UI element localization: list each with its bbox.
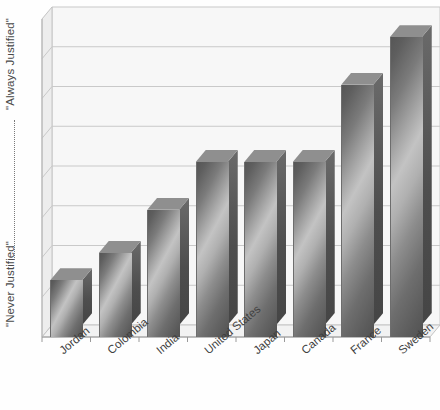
bar-front-face	[293, 162, 326, 337]
bar-side-face	[228, 150, 238, 325]
bar-front-face	[147, 210, 180, 337]
bar-side-face	[373, 73, 383, 325]
bar-side-face	[276, 150, 286, 325]
bar-side-face	[131, 241, 141, 325]
bar-side-face	[179, 198, 189, 325]
bar-united-states	[196, 150, 228, 337]
bar-side-face	[325, 150, 335, 325]
bar-canada	[293, 150, 325, 337]
bar-side-face	[422, 25, 432, 325]
bar-france	[341, 73, 373, 337]
bar-sweden	[390, 25, 422, 337]
bar-front-face	[196, 162, 229, 337]
bar-front-face	[341, 85, 374, 337]
bar-chart: "Always Justified" "Never Justified" Jor…	[0, 0, 440, 410]
bar-front-face	[99, 253, 132, 337]
bar-front-face	[390, 37, 423, 337]
bar-india	[147, 198, 179, 337]
bar-colombia	[99, 241, 131, 337]
bar-jordan	[50, 268, 82, 337]
